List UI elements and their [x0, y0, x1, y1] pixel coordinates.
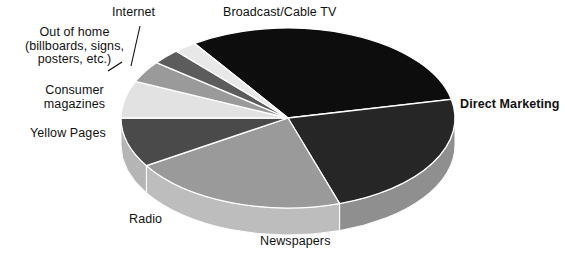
slice-label-broadcast-cable-tv: Broadcast/Cable TV — [223, 6, 336, 20]
slice-label-consumer-magazines: Consumer magazines — [27, 84, 122, 111]
pie-top-faces — [121, 28, 455, 208]
slice-label-out-of-home: Out of home (billboards, signs, posters,… — [12, 26, 137, 67]
slice-label-radio: Radio — [129, 213, 162, 227]
slice-label-direct-marketing: Direct Marketing — [460, 98, 560, 112]
slice-label-internet: Internet — [112, 6, 155, 20]
slice-label-yellow-pages: Yellow Pages — [30, 127, 106, 141]
slice-label-newspapers: Newspapers — [260, 235, 330, 249]
pie-chart-figure: Broadcast/Cable TV Internet Out of home … — [0, 0, 565, 257]
